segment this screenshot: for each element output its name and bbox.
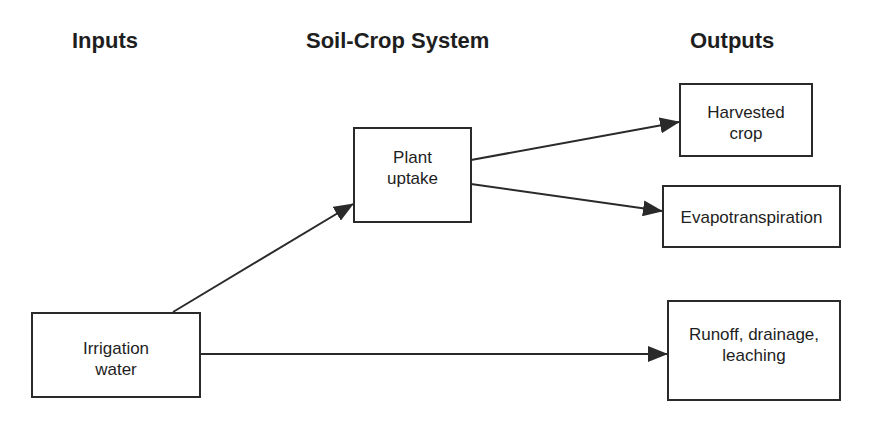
node-harvested-crop: Harvested crop [679, 83, 813, 157]
node-plant-uptake-line1: Plant [387, 147, 438, 168]
node-evapotranspiration-line1: Evapotranspiration [681, 207, 823, 228]
node-evapotranspiration: Evapotranspiration [662, 185, 841, 248]
node-runoff-line1: Runoff, drainage, [689, 324, 819, 345]
arrow-irrigation-to-plant-uptake [173, 204, 353, 312]
arrow-plant-uptake-to-evapotranspiration [471, 184, 662, 211]
node-plant-uptake-line2: uptake [387, 168, 438, 189]
node-harvested-line1: Harvested [707, 102, 784, 123]
node-plant-uptake: Plant uptake [353, 127, 472, 223]
node-harvested-line2: crop [707, 123, 784, 144]
node-irrigation-line2: water [83, 359, 149, 380]
node-runoff-drainage-leaching: Runoff, drainage, leaching [667, 300, 841, 401]
node-irrigation-water: Irrigation water [31, 312, 201, 398]
node-irrigation-line1: Irrigation [83, 338, 149, 359]
node-runoff-line2: leaching [689, 345, 819, 366]
arrow-plant-uptake-to-harvested [471, 122, 679, 160]
